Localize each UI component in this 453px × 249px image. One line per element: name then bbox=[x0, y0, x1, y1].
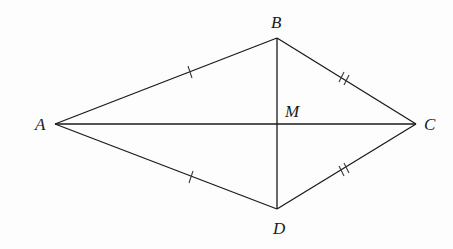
label-m: M bbox=[284, 102, 300, 121]
label-c: C bbox=[424, 115, 436, 134]
label-b: B bbox=[271, 13, 282, 32]
segment-cd bbox=[277, 124, 416, 209]
segment-da bbox=[55, 124, 277, 209]
double-tick-mark-bc bbox=[339, 72, 349, 85]
segment-ab bbox=[55, 38, 277, 124]
label-d: D bbox=[272, 219, 286, 238]
label-a: A bbox=[34, 115, 46, 134]
double-tick-mark-cd bbox=[339, 163, 349, 176]
kite-diagram: A B C D M bbox=[0, 0, 453, 249]
